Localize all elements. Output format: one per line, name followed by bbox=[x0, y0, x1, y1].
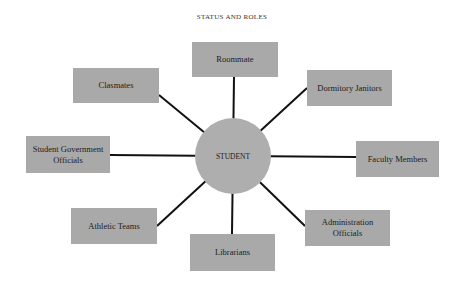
connector-line-librarians bbox=[232, 193, 233, 234]
role-node-label: Student Government Officials bbox=[29, 144, 107, 166]
connector-line-faculty-members bbox=[270, 156, 356, 157]
role-node-label: Athletic Teams bbox=[88, 221, 139, 232]
role-node-administration-officials: Administration Officials bbox=[305, 210, 390, 246]
role-node-dormitory-janitors: Dormitory Janitors bbox=[307, 70, 392, 106]
role-node-label: Clasmates bbox=[99, 80, 134, 91]
role-node-roommate: Roommate bbox=[192, 42, 278, 77]
role-node-label: Dormitory Janitors bbox=[317, 83, 381, 94]
connector-line-dormitory-janitors bbox=[260, 88, 307, 131]
role-node-student-government-officials: Student Government Officials bbox=[26, 136, 110, 173]
role-node-athletic-teams: Athletic Teams bbox=[71, 208, 157, 244]
role-node-label: Roommate bbox=[216, 54, 253, 65]
role-node-librarians: Librarians bbox=[190, 234, 275, 271]
connector-line-student-government-officials bbox=[110, 155, 196, 156]
role-node-label: Administration Officials bbox=[308, 217, 387, 239]
center-node-student: STUDENT bbox=[195, 118, 271, 194]
role-node-classmates: Clasmates bbox=[73, 68, 159, 103]
role-node-label: Faculty Members bbox=[368, 154, 428, 165]
connector-line-athletic-teams bbox=[157, 181, 206, 226]
center-node-label: STUDENT bbox=[216, 152, 250, 161]
connector-line-classmates bbox=[159, 95, 204, 132]
role-node-label: Librarians bbox=[215, 247, 250, 258]
connector-line-administration-officials bbox=[260, 182, 305, 226]
role-node-faculty-members: Faculty Members bbox=[356, 141, 439, 177]
connector-line-roommate bbox=[233, 77, 234, 119]
